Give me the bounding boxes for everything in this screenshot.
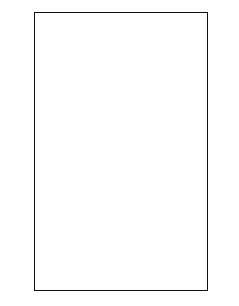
knitting-chart-grid	[34, 12, 208, 291]
